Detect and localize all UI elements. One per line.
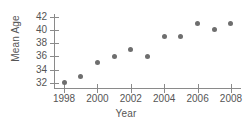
scatter-chart: Mean Age Year 323436384042 1998200020022… — [0, 0, 252, 127]
y-tick-mark — [50, 56, 59, 57]
x-axis-spine — [54, 88, 241, 89]
y-tick-mark — [50, 43, 59, 44]
x-tick-label: 1998 — [47, 94, 81, 104]
y-tick-label: 42 — [21, 12, 47, 22]
x-tick-label: 2006 — [181, 94, 215, 104]
y-tick-label: 34 — [21, 65, 47, 75]
data-point — [162, 34, 167, 39]
data-point — [112, 54, 117, 59]
x-tick-label: 2000 — [80, 94, 114, 104]
x-tick-label: 2004 — [147, 94, 181, 104]
data-point — [178, 34, 183, 39]
y-tick-mark — [50, 17, 59, 18]
x-tick-mark — [131, 84, 132, 93]
data-point — [212, 27, 217, 32]
x-tick-mark — [198, 84, 199, 93]
y-tick-label: 32 — [21, 78, 47, 88]
data-point — [95, 60, 100, 65]
x-tick-mark — [164, 84, 165, 93]
data-point — [128, 47, 133, 52]
plot-area: 323436384042 199820002002200420062008 — [0, 0, 252, 127]
x-tick-label: 2008 — [214, 94, 248, 104]
x-tick-mark — [97, 84, 98, 93]
y-tick-label: 36 — [21, 51, 47, 61]
y-tick-mark — [50, 70, 59, 71]
y-tick-label: 40 — [21, 25, 47, 35]
y-tick-mark — [50, 30, 59, 31]
x-tick-mark — [64, 84, 65, 93]
data-point — [195, 21, 200, 26]
y-tick-label: 38 — [21, 38, 47, 48]
y-axis-spine — [54, 14, 55, 88]
data-point — [228, 21, 233, 26]
data-point — [145, 54, 150, 59]
y-tick-mark — [50, 83, 59, 84]
x-tick-label: 2002 — [114, 94, 148, 104]
x-tick-mark — [231, 84, 232, 93]
data-point — [62, 80, 67, 85]
data-point — [78, 74, 83, 79]
